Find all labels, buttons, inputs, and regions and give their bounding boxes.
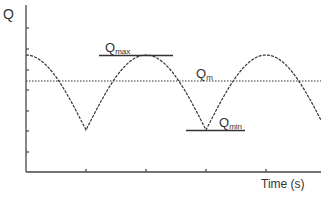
qmax-label-sub: max xyxy=(115,47,130,56)
qmin-label-sub: min xyxy=(229,122,242,131)
qmax-label: Qmax xyxy=(105,41,130,54)
qmin-label: Qmin xyxy=(219,116,242,129)
qm-label: Qm xyxy=(196,67,213,80)
qmax-label-base: Q xyxy=(105,40,115,55)
qmin-label-base: Q xyxy=(219,115,229,130)
flow-waveform xyxy=(26,55,321,130)
qm-label-base: Q xyxy=(196,66,206,81)
flow-rate-diagram: Q Time (s) Qmax Qm Qmin xyxy=(0,0,333,199)
qm-label-sub: m xyxy=(206,73,213,82)
y-axis-label: Q xyxy=(3,7,14,21)
diagram-canvas xyxy=(0,0,333,199)
x-axis-label: Time (s) xyxy=(261,178,305,190)
